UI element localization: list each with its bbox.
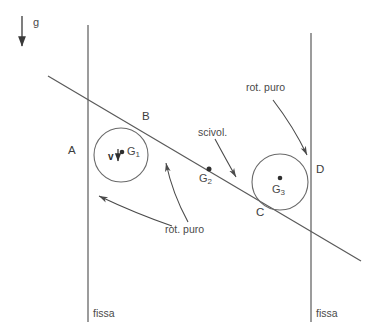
circle-g3: [252, 154, 308, 210]
center-dot-g1: [120, 150, 125, 155]
point-label-d: D: [316, 164, 324, 176]
rot-puro-top-arrow: [273, 100, 307, 155]
point-label-a: A: [68, 145, 76, 157]
center-label-g3-text: G: [272, 183, 281, 195]
gravity-label: g: [33, 17, 39, 28]
center-label-g1: G1: [127, 146, 140, 157]
rot-puro-arrow-to-wall-contact: [99, 196, 172, 226]
right-wall-label: fissa: [316, 308, 338, 319]
center-dot-g3: [278, 176, 283, 181]
left-wall-label: fissa: [93, 308, 115, 319]
point-label-c: C: [256, 207, 264, 219]
scivol-label: scivol.: [198, 127, 227, 138]
center-label-g3-subscript: 3: [281, 188, 285, 197]
velocity-label: v: [108, 152, 114, 162]
rot-puro-arrow-to-circle1-right: [166, 163, 188, 222]
rot-puro-bottom-label: rot. puro: [165, 224, 204, 235]
center-label-g1-subscript: 1: [136, 150, 140, 159]
center-label-g2: G2: [199, 173, 212, 184]
center-dot-g2: [207, 167, 212, 172]
physics-diagram: g A B C D G1 G2 G3 v rot. puro rot. puro…: [0, 0, 377, 334]
center-label-g1-text: G: [127, 145, 136, 157]
scivol-arrow: [215, 139, 236, 177]
incline-line: [48, 76, 361, 261]
center-label-g3: G3: [272, 184, 285, 195]
center-label-g2-text: G: [199, 172, 208, 184]
center-label-g2-subscript: 2: [208, 177, 212, 186]
rot-puro-top-label: rot. puro: [246, 82, 285, 93]
point-label-b: B: [142, 111, 150, 123]
